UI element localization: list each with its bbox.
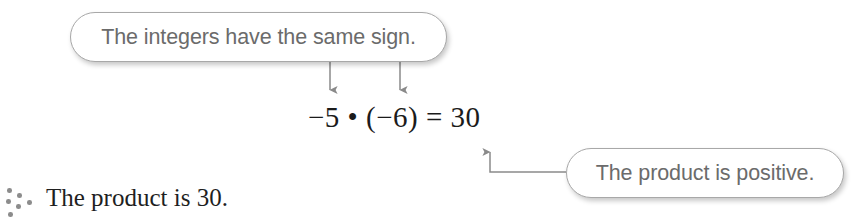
callout-product-positive-text: The product is positive.: [596, 161, 815, 186]
conclusion-text: The product is 30.: [46, 184, 228, 212]
equation-expression: −5 • (−6) = 30: [308, 101, 481, 134]
worked-example-figure: The integers have the same sign. −5 • (−…: [0, 0, 864, 223]
callout-same-sign: The integers have the same sign.: [70, 12, 447, 62]
arrow-to-product: [490, 152, 566, 172]
callout-same-sign-text: The integers have the same sign.: [101, 25, 416, 50]
scatter-dots-icon: [6, 188, 40, 220]
callout-product-positive: The product is positive.: [566, 148, 844, 198]
